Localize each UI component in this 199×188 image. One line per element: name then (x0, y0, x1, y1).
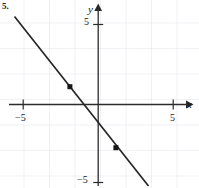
x-axis-tick-label-positive-5: 5 (170, 113, 175, 123)
y-axis-label: y (88, 4, 93, 15)
coordinate-plane (0, 0, 199, 188)
graph-figure: 5. y x 5 −5 −5 5 (0, 0, 199, 188)
y-axis-tick-label-negative-5: −5 (77, 175, 88, 185)
x-axis-tick-label-negative-5: −5 (15, 113, 26, 123)
y-axis-arrowhead (94, 4, 102, 12)
y-axis-tick-label-positive-5: 5 (84, 17, 89, 27)
plotted-line (15, 17, 149, 187)
problem-number-label: 5. (2, 2, 9, 11)
data-point-marker (67, 84, 72, 89)
data-point-marker (113, 145, 118, 150)
x-axis-label: x (187, 99, 192, 110)
